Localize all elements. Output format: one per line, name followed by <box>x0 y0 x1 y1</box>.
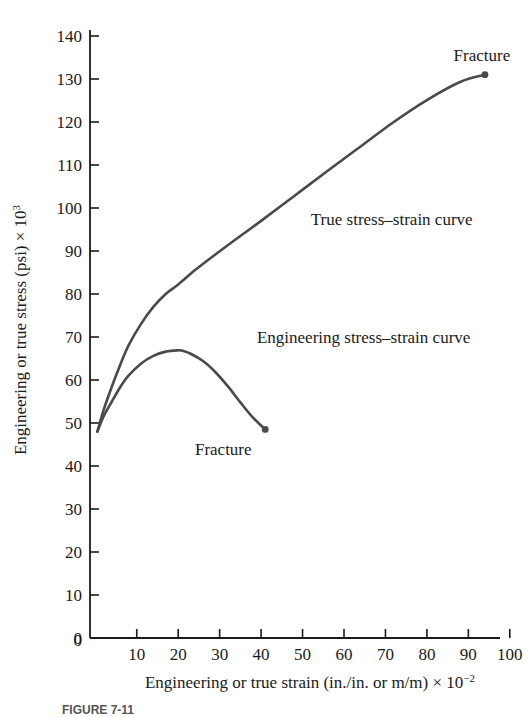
y-axis-title-text: Engineering or true stress (psi) × 103 <box>10 204 30 455</box>
y-tick-label: 10 <box>65 586 82 605</box>
x-tick-label: 70 <box>377 645 394 664</box>
x-tick-label: 40 <box>253 645 270 664</box>
x-tick-label: 60 <box>336 645 353 664</box>
chart-background <box>0 0 529 717</box>
x-tick-label: 20 <box>170 645 187 664</box>
y-tick-label: 60 <box>65 371 82 390</box>
x-tick-label: 0 <box>74 631 83 650</box>
figure-caption: FIGURE 7-11 <box>62 703 134 717</box>
y-tick-label: 40 <box>65 457 82 476</box>
figure-container: 0102030405060708090100110120130140 01020… <box>0 0 529 717</box>
x-tick-label: 100 <box>497 645 523 664</box>
y-tick-label: 30 <box>65 500 82 519</box>
y-tick-label: 130 <box>57 70 83 89</box>
stress-strain-chart: 0102030405060708090100110120130140 01020… <box>0 0 529 717</box>
fracture-label-engineering: Fracture <box>195 440 252 459</box>
y-tick-label: 50 <box>65 414 82 433</box>
x-tick-label: 10 <box>128 645 145 664</box>
fracture-label-true: Fracture <box>454 46 511 65</box>
y-tick-label: 20 <box>65 543 82 562</box>
x-tick-label: 50 <box>294 645 311 664</box>
curve-label-true: True stress–strain curve <box>311 210 473 229</box>
y-tick-label: 80 <box>65 285 82 304</box>
y-tick-label: 120 <box>57 113 83 132</box>
fracture-point-engineering <box>262 426 269 433</box>
y-tick-label: 140 <box>57 27 83 46</box>
y-tick-label: 70 <box>65 328 82 347</box>
y-tick-label: 110 <box>57 156 82 175</box>
y-axis-title: Engineering or true stress (psi) × 103 <box>10 204 30 455</box>
x-tick-label: 30 <box>211 645 228 664</box>
y-tick-label: 90 <box>65 242 82 261</box>
x-axis-title: Engineering or true strain (in./in. or m… <box>145 672 475 692</box>
fracture-point-true <box>482 71 489 78</box>
curve-label-engineering: Engineering stress–strain curve <box>257 328 470 347</box>
x-tick-label: 90 <box>460 645 477 664</box>
x-tick-label: 80 <box>418 645 435 664</box>
y-tick-label: 100 <box>57 199 83 218</box>
